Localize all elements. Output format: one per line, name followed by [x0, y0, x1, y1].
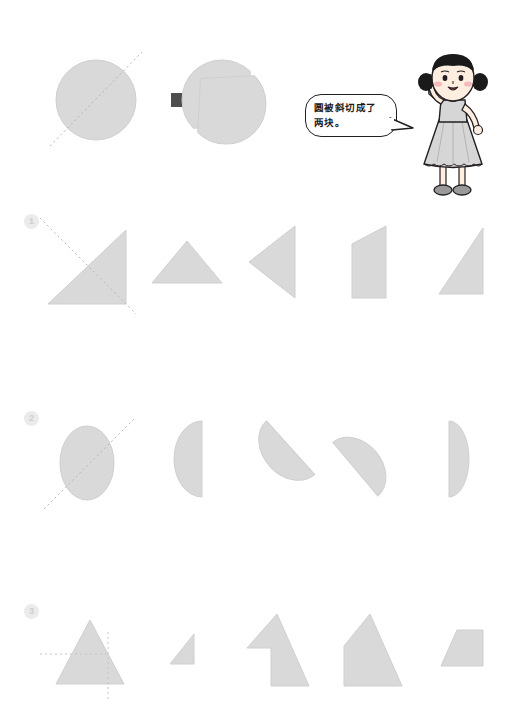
option-shape-small-right-triangle — [170, 634, 194, 664]
option-3-d[interactable] — [415, 598, 506, 713]
shoe-left-icon — [434, 185, 452, 195]
question-row-2: 2 — [0, 405, 507, 520]
prompt-shape-1 — [38, 212, 143, 320]
option-shape-right-triangle-slanted — [439, 228, 483, 294]
options-strip-1 — [142, 208, 507, 323]
eye-right — [459, 75, 464, 81]
row2-source-ellipse — [60, 426, 114, 500]
speech-line-1: 圆被斜切成了 — [314, 100, 390, 115]
example-row: 圆被斜切成了 两块。 — [0, 24, 507, 184]
option-3-c[interactable] — [324, 598, 415, 713]
example-diagram — [40, 38, 300, 168]
option-1-b[interactable] — [233, 208, 324, 323]
row-badge-3: 3 — [24, 604, 39, 619]
option-shape-arrow-notched — [247, 614, 309, 686]
option-3-b[interactable] — [233, 598, 324, 713]
option-shape-house-pentagon — [344, 614, 402, 686]
option-shape-triangle-up-wide — [152, 241, 222, 283]
option-3-a[interactable] — [142, 598, 233, 713]
option-shape-half-ellipse-left — [174, 421, 202, 497]
options-strip-2 — [142, 405, 507, 520]
option-2-d[interactable] — [415, 405, 506, 520]
prompt-shape-2 — [38, 409, 143, 517]
options-strip-3 — [142, 598, 507, 713]
shoe-right-icon — [453, 185, 471, 195]
speech-bubble-text: 圆被斜切成了 两块。 — [314, 100, 390, 130]
cheek-right — [464, 81, 472, 86]
option-1-c[interactable] — [324, 208, 415, 323]
worksheet-page: 圆被斜切成了 两块。 — [0, 0, 507, 722]
option-2-c[interactable] — [324, 405, 415, 520]
hand-right — [474, 126, 483, 135]
question-row-1: 1 — [0, 208, 507, 323]
speech-line-2: 两块。 — [314, 115, 390, 130]
option-2-a[interactable] — [142, 405, 233, 520]
option-shape-quad-tall — [352, 226, 386, 298]
eye-left — [443, 75, 448, 81]
row3-source-triangle — [56, 620, 124, 684]
prompt-shape-3 — [38, 602, 143, 710]
option-1-a[interactable] — [142, 208, 233, 323]
option-1-d[interactable] — [415, 208, 506, 323]
question-row-3: 3 — [0, 598, 507, 713]
option-shape-triangle-left — [249, 226, 295, 298]
row-badge-1: 1 — [24, 214, 39, 229]
option-2-b[interactable] — [233, 405, 324, 520]
girl-character — [404, 48, 504, 204]
row-badge-2: 2 — [24, 411, 39, 426]
option-shape-half-ellipse-narrow-right — [449, 421, 469, 497]
cheek-left — [434, 81, 442, 86]
speech-bubble: 圆被斜切成了 两块。 — [305, 94, 403, 139]
option-shape-trapezoid — [441, 630, 483, 666]
